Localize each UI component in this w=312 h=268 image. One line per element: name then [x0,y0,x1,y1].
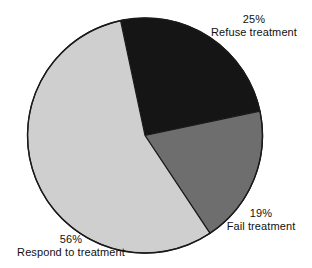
pie-label-fail-treatment: 19% Fail treatment [212,207,310,233]
pie-label-refuse-percent: 25% [198,13,310,26]
pie-label-respond-percent: 56% [0,233,142,246]
pie-chart-figure: 25% Refuse treatment 19% Fail treatment … [0,0,312,268]
pie-label-refuse-name: Refuse treatment [198,26,310,39]
pie-label-fail-percent: 19% [212,207,310,220]
pie-label-fail-name: Fail treatment [212,220,310,233]
pie-label-respond-to-treatment: 56% Respond to treatment [0,233,142,259]
pie-label-refuse-treatment: 25% Refuse treatment [198,13,310,39]
pie-label-respond-name: Respond to treatment [0,246,142,259]
